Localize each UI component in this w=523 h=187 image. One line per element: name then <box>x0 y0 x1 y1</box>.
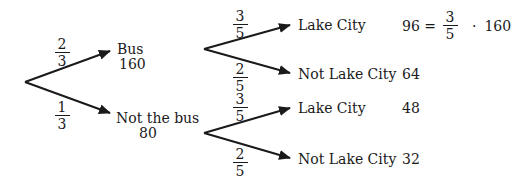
equation-lhs: 96 = <box>402 18 436 34</box>
denominator: 3 <box>58 55 67 68</box>
numerator: 2 <box>236 63 245 76</box>
value-notbus-lake-city: 48 <box>402 101 420 116</box>
multiply-dot: · <box>472 18 476 34</box>
numerator: 2 <box>236 148 245 161</box>
leaf-notbus-lake-city: Lake City <box>298 101 366 116</box>
numerator: 1 <box>58 101 67 114</box>
denominator: 5 <box>236 110 245 123</box>
prob-bus-not-lake-city: 2 5 <box>232 63 248 93</box>
numerator: 3 <box>446 11 455 24</box>
value-notbus-not-lake-city: 32 <box>402 152 420 167</box>
value-bus-not-lake-city: 64 <box>402 67 420 82</box>
node-not-bus-label: Not the bus <box>116 111 199 126</box>
numerator: 3 <box>236 93 245 106</box>
leaf-bus-lake-city: Lake City <box>298 18 366 33</box>
numerator: 2 <box>58 38 67 51</box>
equation-fraction: 3 5 <box>442 11 458 41</box>
equation-rhs: 160 <box>484 18 511 34</box>
prob-notbus-lake-city: 3 5 <box>232 93 248 123</box>
node-bus-count: 160 <box>119 57 146 72</box>
equation-bus-lake-city: 96 = 3 5 · 160 <box>402 11 511 41</box>
node-not-bus-count: 80 <box>139 126 157 141</box>
prob-bus: 2 3 <box>54 38 70 68</box>
node-bus-label: Bus <box>117 42 144 57</box>
leaf-notbus-not-lake-city: Not Lake City <box>298 152 396 167</box>
leaf-bus-not-lake-city: Not Lake City <box>298 67 396 82</box>
denominator: 5 <box>446 28 455 41</box>
numerator: 3 <box>236 10 245 23</box>
prob-bus-lake-city: 3 5 <box>232 10 248 40</box>
denominator: 5 <box>236 27 245 40</box>
prob-notbus-not-lake-city: 2 5 <box>232 148 248 178</box>
denominator: 5 <box>236 165 245 178</box>
prob-not-bus: 1 3 <box>54 101 70 131</box>
denominator: 3 <box>58 118 67 131</box>
